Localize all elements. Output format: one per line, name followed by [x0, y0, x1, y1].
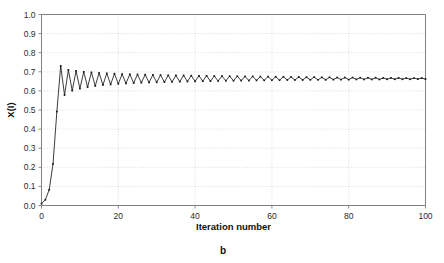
svg-text:0.8: 0.8 [24, 48, 36, 58]
svg-text:100: 100 [418, 211, 432, 221]
grid-lines [42, 15, 426, 206]
svg-text:80: 80 [344, 211, 354, 221]
svg-text:0.0: 0.0 [24, 201, 36, 211]
figure-caption: b [220, 245, 226, 256]
data-series-x-of-i [41, 65, 427, 204]
svg-text:0.2: 0.2 [24, 162, 36, 172]
tick-marks [39, 15, 426, 209]
svg-text:0.3: 0.3 [24, 143, 36, 153]
svg-text:0: 0 [39, 211, 44, 221]
svg-text:0.1: 0.1 [24, 181, 36, 191]
svg-text:1.0: 1.0 [24, 10, 36, 20]
chart-canvas: 0.00.10.20.30.40.50.60.70.80.91.0 020406… [0, 0, 444, 263]
y-axis-title: X(I) [5, 102, 16, 117]
x-axis-tick-labels: 020406080100 [39, 211, 433, 221]
svg-text:0.4: 0.4 [24, 124, 36, 134]
svg-text:20: 20 [114, 211, 124, 221]
svg-text:0.9: 0.9 [24, 29, 36, 39]
svg-text:60: 60 [267, 211, 277, 221]
svg-text:0.6: 0.6 [24, 86, 36, 96]
svg-text:0.5: 0.5 [24, 105, 36, 115]
svg-text:0.7: 0.7 [24, 67, 36, 77]
svg-text:40: 40 [190, 211, 200, 221]
y-axis-tick-labels: 0.00.10.20.30.40.50.60.70.80.91.0 [24, 10, 36, 211]
figure-panel: 0.00.10.20.30.40.50.60.70.80.91.0 020406… [0, 0, 444, 263]
x-axis-title: Iteration number [196, 221, 271, 232]
